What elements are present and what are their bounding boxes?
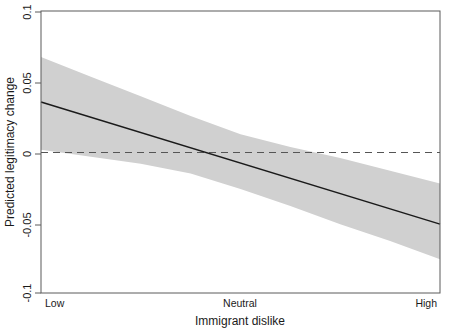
x-tick-label-neutral: Neutral: [223, 297, 257, 309]
chart-figure: 0.1 0.05 0 -0.05 -0.1 Predicted legitima…: [0, 0, 455, 332]
y-axis-title: Predicted legitimacy change: [3, 77, 17, 227]
y-tick-label-0: 0.1: [21, 4, 33, 19]
y-tick-label-2: 0: [21, 151, 33, 157]
x-tick-label-low: Low: [45, 297, 65, 309]
x-tick-label-high: High: [415, 297, 437, 309]
y-tick-label-4: -0.1: [21, 284, 33, 303]
marginal-effects-plot: 0.1 0.05 0 -0.05 -0.1 Predicted legitima…: [0, 0, 455, 332]
x-axis-title: Immigrant dislike: [195, 314, 285, 328]
y-tick-label-1: 0.05: [21, 72, 33, 93]
y-tick-label-3: -0.05: [21, 212, 33, 237]
